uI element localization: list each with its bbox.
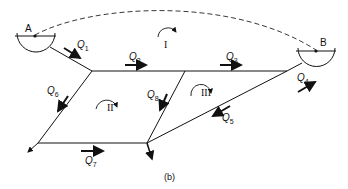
reservoir-a bbox=[15, 33, 56, 52]
loop-label-ii: II bbox=[107, 103, 114, 113]
pipes bbox=[38, 47, 302, 143]
figure-caption: (b) bbox=[164, 173, 175, 182]
flow-label-q1: Q1 bbox=[77, 40, 89, 52]
flow-label-q2: Q2 bbox=[129, 52, 141, 64]
loop-label-iii: III bbox=[201, 88, 211, 98]
flow-arrow-q6 bbox=[58, 96, 68, 111]
flow-label-q7: Q7 bbox=[85, 156, 97, 168]
reservoir-a-label: A bbox=[25, 24, 32, 34]
loop-label-i: I bbox=[164, 40, 167, 50]
flow-label-q6: Q6 bbox=[47, 86, 59, 98]
reservoir-b-label: B bbox=[320, 38, 327, 48]
loop-arrow-i bbox=[158, 28, 176, 37]
flow-label-q5: Q5 bbox=[222, 113, 234, 125]
flow-label-q4: Q4 bbox=[297, 73, 309, 85]
flow-label-q8: Q8 bbox=[147, 90, 159, 102]
outflow-arrow-bottom bbox=[147, 143, 152, 159]
flow-label-q3: Q3 bbox=[226, 52, 238, 64]
reservoir-b bbox=[296, 48, 336, 67]
outflow-arrow-left bbox=[28, 143, 38, 152]
